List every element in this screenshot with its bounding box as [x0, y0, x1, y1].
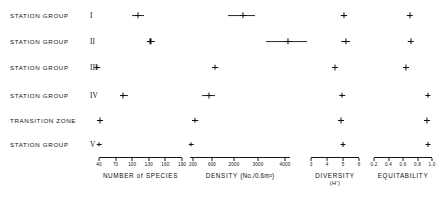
x-axis-tick-label: 200: [189, 162, 197, 167]
x-axis-tick-label: 3000: [253, 162, 264, 167]
x-axis-title: EQUITABILITY: [374, 172, 432, 179]
x-axis-tick-label: 130: [145, 162, 153, 167]
marker-horizontal-stroke: [406, 14, 413, 15]
row-label-station-group-3: STATION GROUPIII: [10, 64, 96, 71]
row-label-roman: IV: [90, 91, 98, 100]
panel-density: 200600200030004000DENSITY (No./0.6m²): [190, 0, 290, 200]
marker-horizontal-stroke: [285, 40, 292, 41]
marker-horizontal-stroke: [408, 40, 415, 41]
row-label-text: STATION GROUP: [10, 12, 69, 19]
x-axis-tick-label: 0.6: [400, 162, 407, 167]
row-label-text: STATION GROUP: [10, 38, 69, 45]
x-axis-line: [311, 157, 359, 158]
row-label-station-group-5: STATION GROUPV: [10, 141, 96, 148]
marker-horizontal-stroke: [332, 66, 338, 67]
x-axis-line: [99, 157, 182, 158]
panel-diversity: 3456DIVERSITY(H'): [311, 0, 359, 200]
marker-horizontal-stroke: [425, 94, 431, 95]
row-label-station-group-4: STATION GROUPIV: [10, 92, 96, 99]
row-label-text: STATION GROUP: [10, 64, 69, 71]
x-axis-subtitle: (H'): [311, 180, 359, 186]
row-label-roman-wrap: I: [90, 11, 92, 20]
row-label-roman-wrap: IV: [90, 91, 98, 100]
marker-horizontal-stroke: [189, 143, 194, 144]
row-label-roman-wrap: II: [90, 37, 95, 46]
x-axis-tick-label: 600: [208, 162, 216, 167]
x-axis-title: NUMBER of SPECIES: [99, 172, 182, 179]
marker-horizontal-stroke: [240, 14, 247, 15]
marker-horizontal-stroke: [338, 119, 344, 120]
x-axis-tick-label: 4000: [280, 162, 291, 167]
x-axis-tick-label: 3: [310, 162, 313, 167]
x-axis-title-text: EQUITABILITY: [378, 172, 429, 179]
x-axis-tick-label: 2000: [229, 162, 240, 167]
row-label-station-group-1: STATION GROUPI: [10, 12, 96, 19]
row-label-roman: I: [90, 11, 92, 20]
marker-horizontal-stroke: [147, 40, 154, 41]
marker-horizontal-stroke: [339, 94, 345, 95]
marker-horizontal-stroke: [134, 14, 141, 15]
marker-horizontal-stroke: [206, 94, 212, 95]
x-axis-line: [190, 157, 290, 158]
x-axis-title-text: NUMBER of SPECIES: [103, 172, 178, 179]
figure-canvas: STATION GROUPISTATION GROUPIISTATION GRO…: [0, 0, 440, 200]
marker-horizontal-stroke: [425, 143, 430, 144]
panel-equitability: 0.20.40.60.81.0EQUITABILITY: [374, 0, 432, 200]
x-axis-title-text: DENSITY: [206, 172, 238, 179]
x-axis-tick-label: 0.8: [414, 162, 421, 167]
row-label-text: STATION GROUP: [10, 141, 69, 148]
x-axis-title: DIVERSITY: [311, 172, 359, 179]
row-label-roman: V: [90, 140, 95, 149]
x-axis-tick-label: 40: [96, 162, 101, 167]
x-axis-tick-label: 0.4: [385, 162, 392, 167]
row-label-text: TRANSITION ZONE: [10, 117, 76, 124]
marker-horizontal-stroke: [343, 40, 350, 41]
marker-horizontal-stroke: [424, 119, 430, 120]
row-label-station-group-2: STATION GROUPII: [10, 38, 96, 45]
marker-horizontal-stroke: [341, 143, 346, 144]
row-label-roman: II: [90, 37, 95, 46]
marker-horizontal-stroke: [192, 119, 198, 120]
marker-horizontal-stroke: [212, 66, 218, 67]
x-axis-tick-label: 4: [326, 162, 329, 167]
x-axis-tick-label: 70: [113, 162, 118, 167]
x-axis-tick-label: 100: [128, 162, 136, 167]
x-axis-tick-label: 6: [358, 162, 361, 167]
x-axis-tick-label: 190: [178, 162, 186, 167]
x-axis-tick-label: 0.2: [371, 162, 378, 167]
marker-horizontal-stroke: [97, 119, 103, 120]
row-label-text: STATION GROUP: [10, 92, 69, 99]
marker-horizontal-stroke: [97, 143, 102, 144]
marker-horizontal-stroke: [341, 14, 348, 15]
x-axis-tick-label: 1.0: [429, 162, 436, 167]
marker-horizontal-stroke: [403, 66, 409, 67]
panel-species: 4070100130160190NUMBER of SPECIES: [99, 0, 182, 200]
row-label-roman-wrap: V: [90, 140, 95, 149]
marker-horizontal-stroke: [120, 94, 126, 95]
x-axis-tick-label: 5: [342, 162, 345, 167]
x-axis-unit-text: (No./0.6m²): [240, 172, 274, 179]
row-label-transition-zone: TRANSITION ZONE: [10, 117, 96, 124]
x-axis-tick-label: 160: [161, 162, 169, 167]
x-axis-title-text: DIVERSITY: [315, 172, 355, 179]
marker-horizontal-stroke: [95, 66, 101, 67]
x-axis-title: DENSITY (No./0.6m²): [190, 172, 290, 179]
